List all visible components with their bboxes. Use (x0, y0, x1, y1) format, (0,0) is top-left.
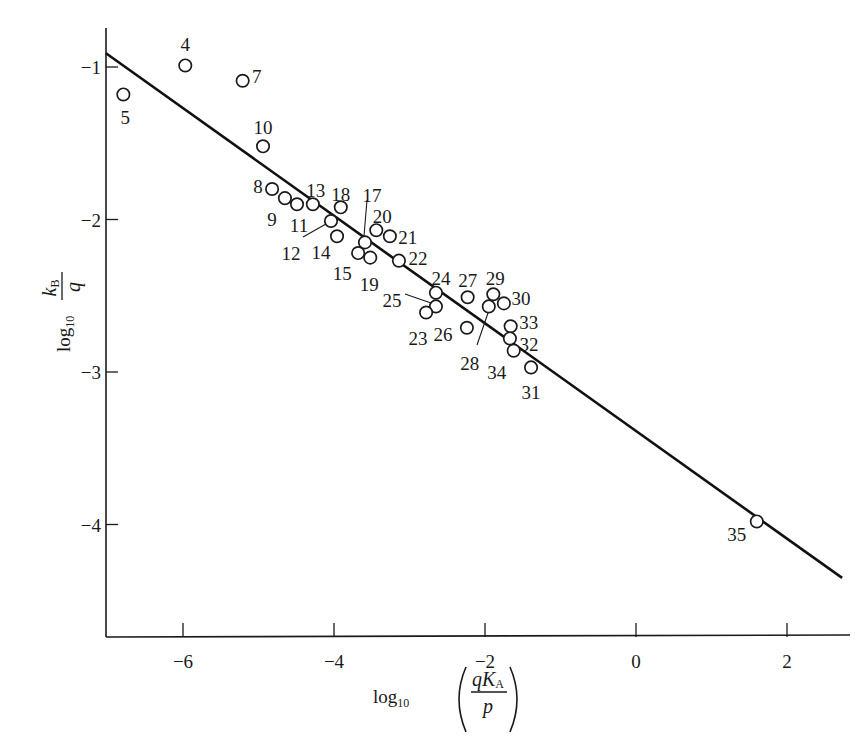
axes: −6−4−202 −1−2−3−4 (81, 28, 850, 672)
y-axis-ticks: −1−2−3−4 (81, 57, 118, 536)
data-point-9-marker (279, 192, 291, 204)
data-point-15-marker (352, 247, 364, 259)
scatter-chart: −6−4−202 −1−2−3−4 log10 kB q log10 qKA p… (0, 0, 862, 755)
data-point-13-label: 13 (306, 180, 325, 201)
data-point-11-marker (291, 198, 303, 210)
data-point-34-label: 34 (487, 362, 507, 383)
y-tick-label: −3 (81, 362, 101, 383)
data-point-31-marker (525, 361, 537, 373)
data-point-26-marker (461, 322, 473, 334)
data-point-12-label: 12 (281, 243, 300, 264)
x-tick-label: 0 (631, 651, 641, 672)
data-point-18-label: 18 (331, 184, 350, 205)
data-point-22-label: 22 (408, 248, 427, 269)
data-point-11-label: 11 (290, 215, 308, 236)
data-point-10-label: 10 (254, 117, 273, 138)
data-point-22-marker (393, 254, 405, 266)
x-title-right-paren (510, 667, 517, 732)
data-point-31-label: 31 (522, 382, 541, 403)
y-axis-title: log10 kB q (38, 272, 85, 352)
data-point-21-label: 21 (398, 227, 417, 248)
data-point-32-label: 32 (519, 334, 538, 355)
y-title-denominator: q (62, 282, 85, 292)
data-point-33-marker (504, 320, 516, 332)
data-point-26-label: 26 (433, 324, 452, 345)
data-point-5-label: 5 (121, 107, 131, 128)
x-axis-ticks: −6−4−202 (173, 623, 792, 672)
data-point-30-label: 30 (511, 288, 530, 309)
data-point-28-label: 28 (460, 353, 479, 374)
data-point-19-marker (364, 251, 376, 263)
x-title-log: log10 (373, 686, 409, 710)
data-point-35-marker (751, 515, 763, 527)
data-point-4-label: 4 (181, 34, 191, 55)
data-point-7-marker (236, 75, 248, 87)
data-point-19-label: 19 (360, 274, 379, 295)
x-axis-title: log10 qKA p (373, 667, 517, 732)
x-tick-label: 2 (782, 651, 792, 672)
data-point-9-label: 9 (267, 209, 277, 230)
data-point-17-label: 17 (362, 185, 381, 206)
data-point-5-marker (117, 88, 129, 100)
data-point-21-marker (384, 230, 396, 242)
data-point-12-marker (325, 215, 337, 227)
x-axis-line (106, 635, 850, 637)
data-point-33-label: 33 (519, 312, 538, 333)
y-title-numerator: kB (38, 280, 62, 297)
x-tick-label: −6 (173, 651, 193, 672)
y-tick-label: −4 (81, 515, 102, 536)
y-tick-label: −1 (81, 57, 101, 78)
leader-line-25 (405, 294, 431, 303)
data-point-10-marker (257, 140, 269, 152)
x-title-denominator: p (481, 695, 493, 718)
data-point-34-marker (507, 344, 519, 356)
data-point-29-label: 29 (486, 268, 505, 289)
data-point-27-marker (461, 291, 473, 303)
data-point-20-label: 20 (373, 206, 392, 227)
data-point-25-label: 25 (382, 290, 401, 311)
x-title-left-paren (459, 667, 466, 732)
data-point-15-label: 15 (333, 263, 352, 284)
data-point-8-label: 8 (253, 176, 263, 197)
x-tick-label: −4 (324, 651, 345, 672)
data-point-29-marker (487, 288, 499, 300)
data-point-27-label: 27 (458, 270, 477, 291)
data-point-24-label: 24 (431, 268, 451, 289)
data-point-35-label: 35 (727, 524, 746, 545)
data-point-8-marker (266, 183, 278, 195)
y-tick-label: −2 (81, 210, 101, 231)
x-title-numerator: qKA (472, 668, 504, 691)
data-point-7-label: 7 (252, 66, 262, 87)
data-point-14-marker (331, 230, 343, 242)
data-point-14-label: 14 (312, 242, 332, 263)
data-point-32-marker (504, 332, 516, 344)
data-point-23-marker (420, 306, 432, 318)
regression-line (106, 53, 842, 578)
data-point-28-marker (483, 300, 495, 312)
data-point-30-marker (498, 297, 510, 309)
data-point-23-label: 23 (409, 328, 428, 349)
y-title-log: log10 (53, 316, 77, 352)
data-point-4-marker (179, 59, 191, 71)
